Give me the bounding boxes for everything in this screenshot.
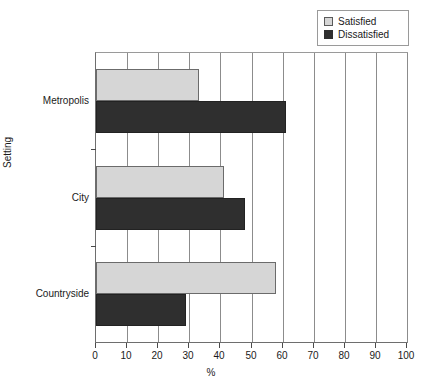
x-axis-tick <box>282 343 283 348</box>
bar-chart: Satisfied Dissatisfied 01020304050607080… <box>0 0 422 386</box>
x-axis-tick <box>344 343 345 348</box>
bar-countryside-dissatisfied <box>96 294 186 326</box>
x-axis-tick <box>219 343 220 348</box>
x-axis-tick <box>375 343 376 348</box>
x-axis-tick <box>95 343 96 348</box>
y-axis-title: Setting <box>2 137 13 168</box>
x-axis-tick <box>157 343 158 348</box>
x-axis-tick-label: 100 <box>386 350 422 361</box>
gridline <box>407 53 408 342</box>
legend-item-dissatisfied: Dissatisfied <box>324 28 402 41</box>
plot-area <box>95 52 408 343</box>
y-axis-tick <box>91 149 96 150</box>
dissatisfied-swatch-icon <box>324 30 333 39</box>
bar-metropolis-satisfied <box>96 69 199 101</box>
x-axis-tick <box>313 343 314 348</box>
x-axis-title: % <box>0 367 422 378</box>
bars-layer <box>96 53 407 342</box>
legend-label-satisfied: Satisfied <box>338 15 376 28</box>
bar-metropolis-dissatisfied <box>96 101 286 133</box>
bar-countryside-satisfied <box>96 262 276 294</box>
chart-legend: Satisfied Dissatisfied <box>317 10 409 46</box>
legend-label-dissatisfied: Dissatisfied <box>338 28 389 41</box>
x-axis-tick <box>126 343 127 348</box>
x-axis-tick <box>188 343 189 348</box>
legend-item-satisfied: Satisfied <box>324 15 402 28</box>
y-axis-category-label: City <box>9 192 89 203</box>
x-axis-tick <box>406 343 407 348</box>
y-axis-tick <box>91 246 96 247</box>
bar-city-dissatisfied <box>96 198 245 230</box>
y-axis-category-label: Metropolis <box>9 95 89 106</box>
y-axis-category-label: Countryside <box>9 288 89 299</box>
bar-city-satisfied <box>96 166 224 198</box>
x-axis-tick <box>251 343 252 348</box>
satisfied-swatch-icon <box>324 17 333 26</box>
